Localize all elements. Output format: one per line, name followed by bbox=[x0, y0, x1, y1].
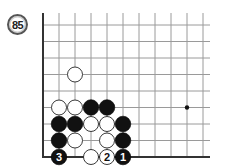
go-diagram: 85 321 bbox=[0, 0, 226, 168]
white-stone-icon bbox=[100, 133, 115, 148]
black-stone-icon bbox=[67, 116, 83, 132]
black-stone-icon bbox=[51, 133, 67, 149]
black-stone-icon bbox=[99, 100, 115, 116]
hoshi-point-icon bbox=[185, 105, 189, 109]
white-stone-icon bbox=[68, 100, 83, 115]
white-stone-icon bbox=[100, 117, 115, 132]
move-number-label: 2 bbox=[104, 151, 110, 163]
black-stone-icon bbox=[83, 100, 99, 116]
white-stone-icon bbox=[68, 133, 83, 148]
white-stone-icon bbox=[68, 67, 83, 82]
black-stone-icon bbox=[115, 133, 131, 149]
white-stone-icon bbox=[84, 150, 99, 165]
white-stone-icon bbox=[52, 100, 67, 115]
black-stone-icon bbox=[115, 116, 131, 132]
move-number-label: 1 bbox=[120, 151, 126, 163]
go-board: 321 bbox=[0, 0, 226, 168]
white-stone-icon bbox=[84, 117, 99, 132]
move-number-label: 3 bbox=[56, 151, 62, 163]
black-stone-icon bbox=[51, 116, 67, 132]
